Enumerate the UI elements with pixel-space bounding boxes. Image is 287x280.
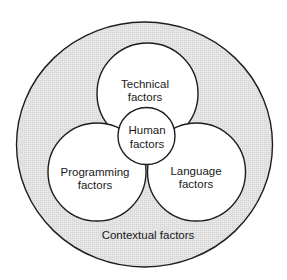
human-label-line1: Human (128, 124, 165, 136)
technical-label-line1: Technical (121, 78, 169, 90)
contextual-factors-label: Contextual factors (102, 229, 195, 241)
factors-diagram: Technical factors Human factors Programm… (0, 0, 287, 280)
human-factors-circle (118, 108, 175, 165)
technical-factors-label: Technical factors (121, 78, 169, 103)
technical-label-line2: factors (128, 91, 163, 103)
language-label-line1: Language (170, 165, 221, 177)
language-label-line2: factors (179, 178, 214, 190)
human-label-line2: factors (130, 138, 165, 150)
programming-label-line1: Programming (60, 166, 129, 178)
programming-label-line2: factors (78, 179, 113, 191)
